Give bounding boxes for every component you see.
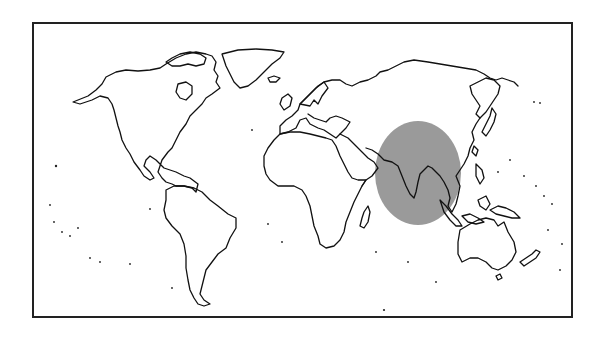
world-map-figure <box>0 0 602 338</box>
map-frame <box>33 23 572 317</box>
